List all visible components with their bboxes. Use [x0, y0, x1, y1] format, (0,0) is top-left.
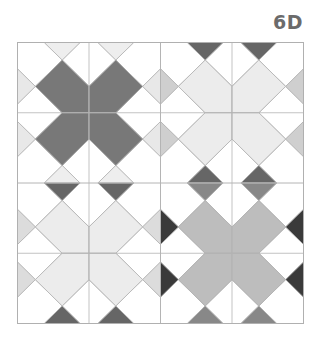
tile-label: 6D: [273, 11, 303, 33]
tile-pattern-grid: [17, 42, 304, 324]
